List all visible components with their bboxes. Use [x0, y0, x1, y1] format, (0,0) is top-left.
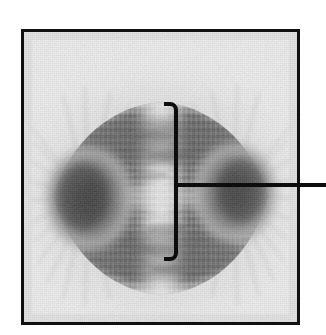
micrograph-frame — [21, 29, 300, 325]
annotation-label — [0, 0, 1, 1]
spindle-micrograph — [24, 32, 297, 322]
figure-caption — [0, 0, 1, 1]
micrograph-alt-text: Grayscale micrograph of a mitotic spindl… — [0, 0, 1, 1]
figure-root: Grayscale micrograph of a mitotic spindl… — [0, 0, 326, 335]
